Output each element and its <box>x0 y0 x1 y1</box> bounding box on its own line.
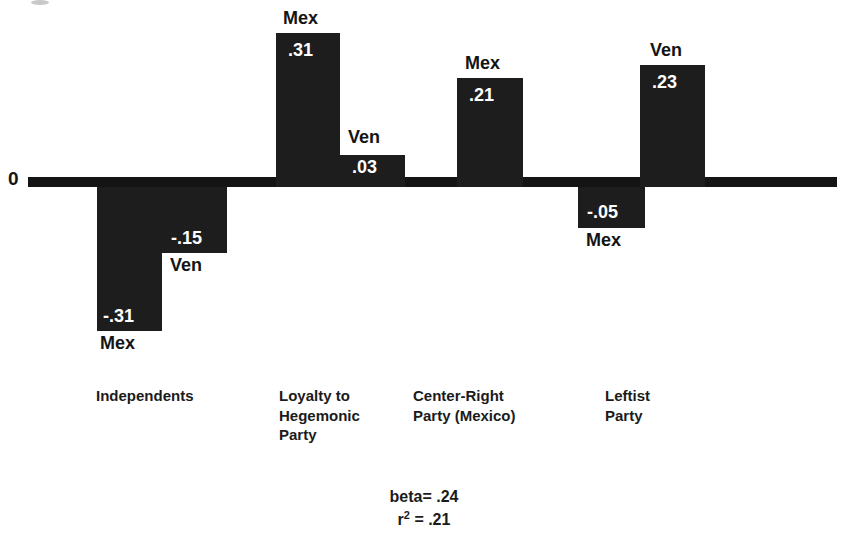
bar-value-loyalty-ven: .03 <box>352 158 377 176</box>
category-label-leftist-party: Leftist Party <box>605 386 735 425</box>
plot-area: 0 -.31 Mex -.15 Ven .31 Mex .03 Ven .21 … <box>0 0 848 370</box>
beta-statistic: beta= .24 <box>0 486 848 508</box>
bar-series-label-center-right-mex: Mex <box>465 54 500 72</box>
axis-zero-label: 0 <box>8 169 19 188</box>
bar-value-leftist-mex: -.05 <box>587 203 618 221</box>
bar-value-leftist-ven: .23 <box>652 73 677 91</box>
bar-series-label-leftist-ven: Ven <box>650 41 682 59</box>
chart-statistics: beta= .24 r2 = .21 <box>0 486 848 532</box>
chart-canvas: 0 -.31 Mex -.15 Ven .31 Mex .03 Ven .21 … <box>0 0 848 535</box>
r-squared-value: = .21 <box>410 512 450 529</box>
bar-series-label-independents-ven: Ven <box>170 256 202 274</box>
category-label-independents: Independents <box>96 386 256 406</box>
bar-value-independents-mex: -.31 <box>103 307 134 325</box>
bar-series-label-independents-mex: Mex <box>100 334 135 352</box>
r-squared-statistic: r2 = .21 <box>0 508 848 532</box>
bar-series-label-loyalty-mex: Mex <box>283 9 318 27</box>
bar-value-center-right-mex: .21 <box>469 86 494 104</box>
category-label-loyalty-hegemonic-party: Loyalty to Hegemonic Party <box>279 386 419 445</box>
bar-value-independents-ven: -.15 <box>171 229 202 247</box>
zero-axis-line <box>28 177 837 187</box>
category-label-center-right-party: Center-Right Party (Mexico) <box>413 386 573 425</box>
bar-series-label-loyalty-ven: Ven <box>348 128 380 146</box>
bar-value-loyalty-mex: .31 <box>288 41 313 59</box>
bar-series-label-leftist-mex: Mex <box>586 231 621 249</box>
